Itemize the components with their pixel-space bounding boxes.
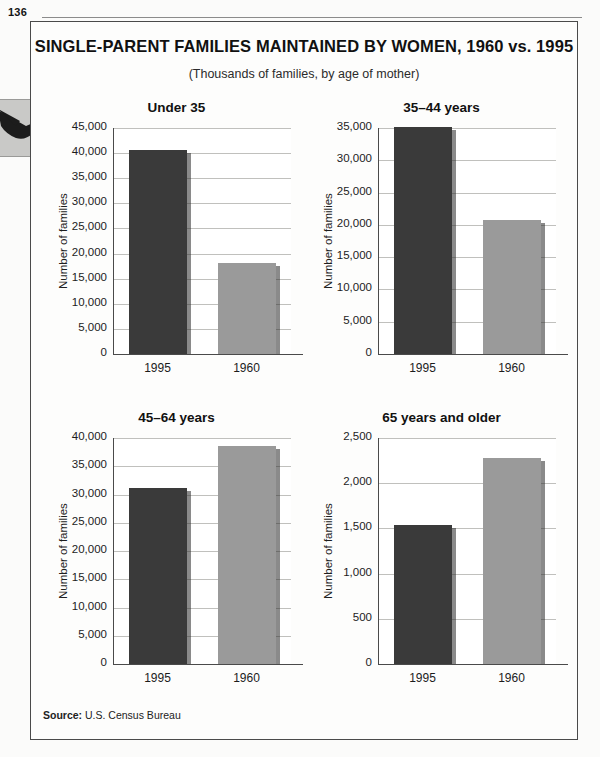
x-tick-label: 1995 — [118, 671, 198, 685]
x-axis-line — [378, 354, 568, 355]
x-tick-label: 1995 — [383, 361, 463, 375]
y-tick-label: 5,000 — [328, 314, 372, 326]
y-tick-label: 20,000 — [63, 246, 107, 258]
bar-1960 — [483, 458, 541, 664]
y-tick-label: 10,000 — [328, 281, 372, 293]
panel-title: 65 years and older — [314, 410, 569, 425]
bar-1960 — [218, 446, 276, 664]
bar-shadow — [452, 130, 456, 354]
y-tick-label: 1,500 — [328, 520, 372, 532]
y-tick-label: 30,000 — [63, 487, 107, 499]
bar-shadow — [452, 528, 456, 664]
x-tick-label: 1995 — [383, 671, 463, 685]
y-tick-label: 10,000 — [63, 296, 107, 308]
y-tick-label: 0 — [328, 656, 372, 668]
page-number: 136 — [8, 6, 27, 18]
x-tick-label: 1960 — [207, 671, 287, 685]
y-tick-label: 35,000 — [63, 458, 107, 470]
bar-1960 — [218, 263, 276, 354]
y-axis-line — [378, 128, 379, 355]
y-tick-label: 0 — [63, 656, 107, 668]
y-tick-label: 40,000 — [63, 430, 107, 442]
x-tick-label: 1995 — [118, 361, 198, 375]
bar-shadow — [187, 153, 191, 354]
bar-1960 — [483, 220, 541, 354]
chart-panel-under-35: Under 35Number of families05,00010,00015… — [49, 100, 304, 390]
source-note: Source: U.S. Census Bureau — [43, 709, 181, 721]
panel-title: 45–64 years — [49, 410, 304, 425]
gridline — [113, 128, 291, 129]
bar-shadow — [276, 449, 280, 664]
figure-title: SINGLE-PARENT FAMILIES MAINTAINED BY WOM… — [31, 37, 577, 56]
panel-title: Under 35 — [49, 100, 304, 115]
source-label: Source: — [43, 709, 82, 721]
y-tick-label: 15,000 — [328, 249, 372, 261]
y-tick-label: 30,000 — [63, 195, 107, 207]
x-axis-line — [113, 664, 303, 665]
arrow-marker-icon — [0, 100, 34, 156]
x-axis-line — [113, 354, 303, 355]
bar-shadow — [276, 266, 280, 354]
bar-1995 — [394, 127, 452, 354]
y-tick-label: 5,000 — [63, 628, 107, 640]
y-tick-label: 40,000 — [63, 145, 107, 157]
y-tick-label: 1,000 — [328, 566, 372, 578]
y-axis-line — [113, 128, 114, 355]
bar-shadow — [187, 491, 191, 664]
chart-panel-65-and-older: 65 years and olderNumber of families0500… — [314, 410, 569, 700]
y-tick-label: 45,000 — [63, 120, 107, 132]
bar-1995 — [394, 525, 452, 664]
bar-1995 — [129, 150, 187, 354]
x-axis-line — [378, 664, 568, 665]
y-tick-label: 30,000 — [328, 152, 372, 164]
y-tick-label: 15,000 — [63, 271, 107, 283]
y-tick-label: 35,000 — [328, 120, 372, 132]
y-axis-line — [113, 438, 114, 665]
bar-shadow — [541, 223, 545, 354]
y-axis-title: Number of families — [322, 503, 334, 599]
y-tick-label: 20,000 — [328, 217, 372, 229]
y-tick-label: 2,000 — [328, 475, 372, 487]
figure-frame: SINGLE-PARENT FAMILIES MAINTAINED BY WOM… — [30, 21, 578, 740]
y-axis-title: Number of families — [322, 193, 334, 289]
y-axis-line — [378, 438, 379, 665]
y-tick-label: 5,000 — [63, 321, 107, 333]
source-text: U.S. Census Bureau — [85, 709, 181, 721]
y-tick-label: 15,000 — [63, 571, 107, 583]
y-tick-label: 0 — [63, 346, 107, 358]
y-tick-label: 10,000 — [63, 600, 107, 612]
x-tick-label: 1960 — [207, 361, 287, 375]
y-tick-label: 2,500 — [328, 430, 372, 442]
bar-1995 — [129, 488, 187, 664]
gridline — [113, 438, 291, 439]
gridline — [378, 438, 556, 439]
x-tick-label: 1960 — [472, 671, 552, 685]
y-tick-label: 0 — [328, 346, 372, 358]
x-tick-label: 1960 — [472, 361, 552, 375]
chart-panel-35-44: 35–44 yearsNumber of families05,00010,00… — [314, 100, 569, 390]
bar-shadow — [541, 461, 545, 664]
y-tick-label: 25,000 — [63, 220, 107, 232]
header-rule — [42, 17, 582, 18]
y-tick-label: 25,000 — [63, 515, 107, 527]
panel-title: 35–44 years — [314, 100, 569, 115]
y-tick-label: 500 — [328, 611, 372, 623]
chart-panel-45-64: 45–64 yearsNumber of families05,00010,00… — [49, 410, 304, 700]
y-tick-label: 35,000 — [63, 170, 107, 182]
y-tick-label: 25,000 — [328, 185, 372, 197]
figure-subtitle: (Thousands of families, by age of mother… — [31, 67, 577, 81]
y-tick-label: 20,000 — [63, 543, 107, 555]
